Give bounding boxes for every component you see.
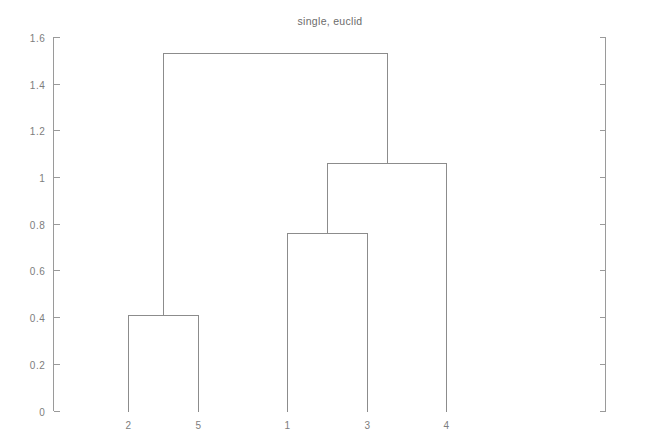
- y-tick-label: 1: [39, 173, 45, 184]
- dendrogram-link: [328, 164, 447, 412]
- dendrogram-link: [288, 234, 368, 412]
- dendrogram-plot: single, euclid 00.20.40.60.811.21.41.6 2…: [0, 0, 645, 447]
- y-axis-tick-labels: 00.20.40.60.811.21.41.6: [30, 33, 46, 418]
- y-tick-label: 0.8: [30, 220, 46, 231]
- y-tick-label: 0: [39, 407, 45, 418]
- x-tick-label: 4: [443, 420, 449, 431]
- x-tick-label: 1: [284, 420, 290, 431]
- dendrogram-links: [129, 54, 447, 412]
- dendrogram-link: [129, 316, 199, 412]
- dendrogram-figure: single, euclid 00.20.40.60.811.21.41.6 2…: [0, 0, 645, 447]
- dendrogram-link: [164, 54, 388, 316]
- x-tick-label: 2: [125, 420, 131, 431]
- y-axis-ticks-right: [600, 38, 606, 412]
- x-tick-label: 3: [364, 420, 370, 431]
- y-tick-label: 0.2: [30, 360, 46, 371]
- y-tick-label: 0.4: [30, 313, 46, 324]
- y-tick-label: 0.6: [30, 266, 46, 277]
- y-tick-label: 1.2: [30, 126, 46, 137]
- y-tick-label: 1.4: [30, 80, 46, 91]
- x-tick-label: 5: [195, 420, 201, 431]
- y-tick-label: 1.6: [30, 33, 46, 44]
- x-axis-tick-labels: 25134: [125, 420, 449, 431]
- chart-title: single, euclid: [298, 15, 363, 27]
- y-axis-ticks-left: [54, 38, 60, 412]
